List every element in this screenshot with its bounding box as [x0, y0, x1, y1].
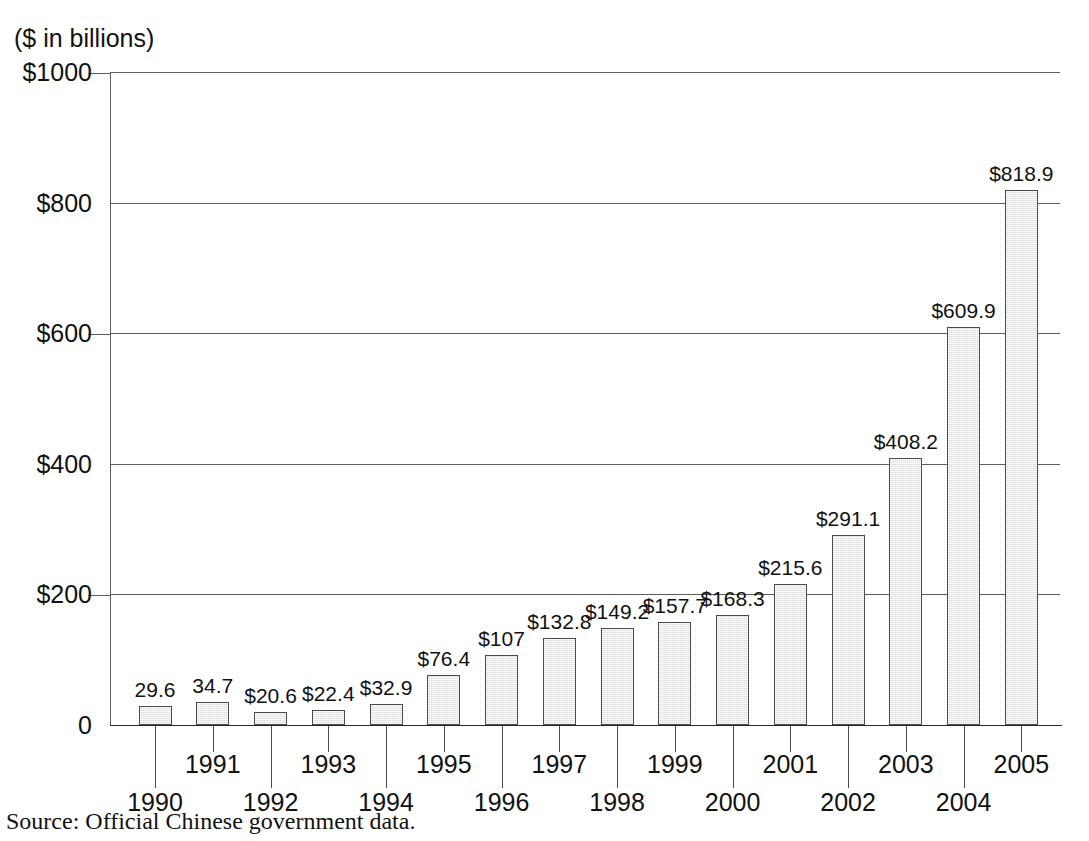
- plot-area: 0$200$400$600$800$1000 29.634.7$20.6$22.…: [110, 72, 1060, 725]
- bar-value-label-1991: 34.7: [192, 674, 233, 698]
- bar-2002[interactable]: [832, 535, 865, 725]
- bar-2003[interactable]: [889, 458, 922, 725]
- x-axis-label-2003: 2003: [878, 750, 934, 779]
- y-axis-label-800: $800: [36, 188, 92, 217]
- x-axis-label-2000: 2000: [705, 788, 761, 817]
- bar-value-label-2001: $215.6: [758, 556, 822, 580]
- x-axis-label-1995: 1995: [416, 750, 472, 779]
- y-axis-units-caption: ($ in billions): [14, 24, 154, 53]
- bar-1996[interactable]: [485, 655, 518, 725]
- x-axis-label-1991: 1991: [185, 750, 241, 779]
- bar-value-label-1993: $22.4: [302, 682, 355, 706]
- x-axis-label-2001: 2001: [762, 750, 818, 779]
- y-axis-label-0: 0: [78, 711, 92, 740]
- bar-value-label-1998: $149.2: [585, 600, 649, 624]
- x-axis-tick-1995: [444, 726, 445, 752]
- x-axis-tick-1991: [213, 726, 214, 752]
- x-axis-tick-1998: [617, 726, 618, 788]
- bar-value-label-1994: $32.9: [360, 676, 413, 700]
- bar-value-label-2004: $609.9: [931, 299, 995, 323]
- bar-value-label-2002: $291.1: [816, 507, 880, 531]
- bar-1994[interactable]: [370, 704, 403, 725]
- bar-value-label-2005: $818.9: [989, 162, 1053, 186]
- bar-1999[interactable]: [658, 622, 691, 725]
- bar-value-label-1999: $157.7: [643, 594, 707, 618]
- y-axis-label-400: $400: [36, 449, 92, 478]
- x-axis-tick-2003: [906, 726, 907, 752]
- x-axis-tick-1990: [155, 726, 156, 788]
- bar-value-label-1995: $76.4: [418, 647, 471, 671]
- bar-2005[interactable]: [1005, 190, 1038, 725]
- y-axis-line: [110, 72, 111, 725]
- bar-1997[interactable]: [543, 638, 576, 725]
- x-axis-label-2005: 2005: [993, 750, 1049, 779]
- x-axis-label-1998: 1998: [589, 788, 645, 817]
- x-axis-tick-2000: [733, 726, 734, 788]
- x-axis-tick-1999: [675, 726, 676, 752]
- x-axis-tick-1996: [502, 726, 503, 788]
- x-axis-tick-2001: [790, 726, 791, 752]
- bar-chart-figure: ($ in billions) 0$200$400$600$800$1000 2…: [0, 0, 1089, 841]
- x-axis-tick-1992: [271, 726, 272, 788]
- y-axis-label-200: $200: [36, 580, 92, 609]
- y-axis-label-1000: $1000: [22, 58, 92, 87]
- x-axis-label-1997: 1997: [531, 750, 587, 779]
- bar-1991[interactable]: [196, 702, 229, 725]
- x-axis-label-1996: 1996: [474, 788, 530, 817]
- source-note: Source: Official Chinese government data…: [6, 808, 415, 835]
- x-axis-tick-2005: [1021, 726, 1022, 752]
- y-axis-label-600: $600: [36, 319, 92, 348]
- x-axis-label-2002: 2002: [820, 788, 876, 817]
- gridline-600: [110, 333, 1060, 334]
- bar-2001[interactable]: [774, 584, 807, 725]
- gridline-1000: [110, 72, 1060, 73]
- x-axis-label-1999: 1999: [647, 750, 703, 779]
- bar-1990[interactable]: [139, 706, 172, 725]
- x-axis-tick-2004: [964, 726, 965, 788]
- gridline-800: [110, 203, 1060, 204]
- bar-value-label-1997: $132.8: [527, 610, 591, 634]
- bar-1992[interactable]: [254, 712, 287, 725]
- bar-value-label-1992: $20.6: [244, 684, 297, 708]
- bar-2004[interactable]: [947, 327, 980, 725]
- x-axis-tick-1994: [386, 726, 387, 788]
- bar-2000[interactable]: [716, 615, 749, 725]
- x-axis-label-1993: 1993: [300, 750, 356, 779]
- bar-1995[interactable]: [427, 675, 460, 725]
- bar-value-label-2000: $168.3: [700, 587, 764, 611]
- bar-value-label-2003: $408.2: [874, 430, 938, 454]
- bar-1998[interactable]: [601, 628, 634, 725]
- x-axis-tick-1997: [559, 726, 560, 752]
- bar-value-label-1996: $107: [478, 627, 525, 651]
- x-axis-tick-1993: [328, 726, 329, 752]
- x-axis-tick-2002: [848, 726, 849, 788]
- bar-value-label-1990: 29.6: [135, 678, 176, 702]
- bar-1993[interactable]: [312, 710, 345, 725]
- x-axis-label-2004: 2004: [936, 788, 992, 817]
